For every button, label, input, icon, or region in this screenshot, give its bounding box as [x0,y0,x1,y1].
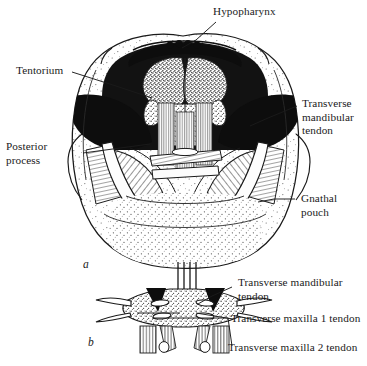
tendon-tubes [140,326,229,353]
label-posterior-process: Posterior process [6,140,47,167]
figure-letter-a: a [83,258,89,270]
label-transverse-maxilla-1-tendon: Transverse maxilla 1 tendon [231,312,360,326]
label-gnathal-pouch: Gnathal pouch [301,192,337,219]
label-hypopharynx: Hypopharynx [213,5,276,19]
figure-letter-b: b [88,336,94,348]
figure-a [68,34,310,269]
label-transverse-mandibular-tendon-a: Transverse mandibular tendon [302,97,354,138]
label-tentorium: Tentorium [16,64,63,78]
label-transverse-maxilla-2-tendon: Transverse maxilla 2 tendon [228,341,357,355]
label-transverse-mandibular-tendon-b: Transverse mandibular tendon [238,276,343,303]
